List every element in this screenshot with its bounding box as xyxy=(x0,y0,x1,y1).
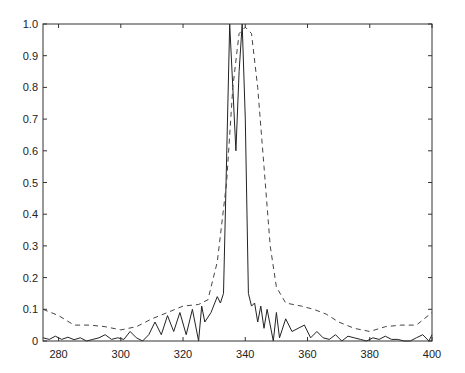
x-tick-label: 360 xyxy=(298,348,316,360)
y-tick-label: 0.9 xyxy=(23,50,38,62)
line-chart: 280300320340360380400 00.10.20.30.40.50.… xyxy=(0,0,465,373)
y-tick-label: 0.4 xyxy=(23,208,38,220)
x-tick-label: 340 xyxy=(236,348,254,360)
dashed-series-line xyxy=(43,27,432,331)
y-tick-label: 1.0 xyxy=(23,18,38,30)
y-axis-ticks: 00.10.20.30.40.50.60.70.80.91.0 xyxy=(23,18,432,347)
axes-frame xyxy=(43,24,432,341)
y-tick-label: 0.2 xyxy=(23,272,38,284)
x-tick-label: 280 xyxy=(49,348,67,360)
x-axis-ticks: 280300320340360380400 xyxy=(49,24,441,360)
x-tick-label: 300 xyxy=(112,348,130,360)
x-tick-label: 400 xyxy=(423,348,441,360)
x-tick-label: 320 xyxy=(174,348,192,360)
y-tick-label: 0.6 xyxy=(23,145,38,157)
y-tick-label: 0.3 xyxy=(23,240,38,252)
y-tick-label: 0.8 xyxy=(23,81,38,93)
y-tick-label: 0.7 xyxy=(23,113,38,125)
y-tick-label: 0.1 xyxy=(23,303,38,315)
y-tick-label: 0 xyxy=(32,335,38,347)
x-tick-label: 380 xyxy=(361,348,379,360)
plot-lines xyxy=(43,24,432,341)
y-tick-label: 0.5 xyxy=(23,177,38,189)
solid-series-line xyxy=(43,24,432,341)
